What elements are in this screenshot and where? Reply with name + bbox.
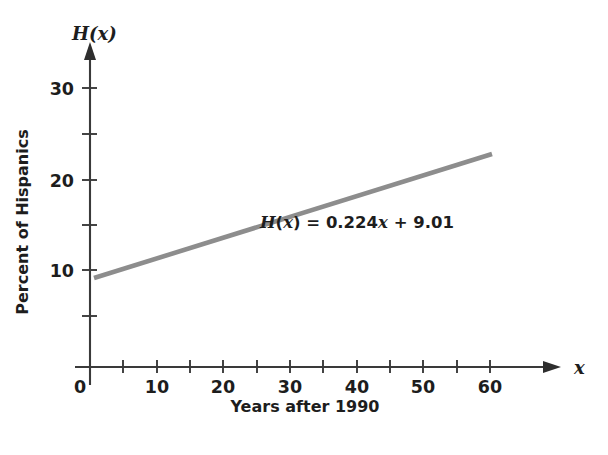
equation-term-var: x (377, 213, 388, 232)
x-tick-label-20: 20 (211, 377, 235, 397)
x-tick-label-30: 30 (278, 377, 302, 397)
y-tick-label-20: 20 (50, 171, 74, 191)
y-tick-label-10: 10 (50, 261, 74, 281)
y-tick-label-30: 30 (50, 79, 74, 99)
x-axis-title: Years after 1990 (230, 397, 380, 416)
x-tick-label-0: 0 (74, 377, 86, 397)
y-axis-tick-labels: 30 20 10 (50, 79, 74, 281)
equation-annotation: H(x) = 0.224x + 9.01 (259, 213, 454, 232)
equation-coefficient: 0.224 (326, 213, 378, 232)
y-axis-title: Percent of Hispanics (13, 129, 32, 314)
x-tick-label-40: 40 (345, 377, 369, 397)
x-axis-arrow-icon (543, 361, 561, 373)
line-chart-canvas: 30 20 10 0 10 20 30 40 50 60 (0, 0, 608, 455)
equation-constant: 9.01 (413, 213, 454, 232)
y-axis-symbol-label: H(x) (71, 23, 117, 44)
equation-fn-name: H (259, 213, 277, 232)
y-axis-arrow-icon (84, 42, 96, 60)
x-axis-tick-labels: 0 10 20 30 40 50 60 (74, 377, 502, 397)
equation-close-paren: ) (293, 213, 301, 232)
equation-equals: = (301, 213, 326, 232)
equation-open-paren: ( (276, 213, 284, 232)
x-tick-label-50: 50 (411, 377, 435, 397)
x-axis-symbol-label: x (573, 357, 585, 378)
x-tick-label-60: 60 (478, 377, 502, 397)
equation-plus: + (388, 213, 413, 232)
equation-lhs-var: x (282, 213, 293, 232)
equation-label: H(x) = 0.224x + 9.01 (259, 213, 454, 232)
chart-figure: 30 20 10 0 10 20 30 40 50 60 (0, 0, 608, 455)
x-tick-label-10: 10 (145, 377, 169, 397)
axis-symbols: H(x) x (71, 23, 585, 378)
